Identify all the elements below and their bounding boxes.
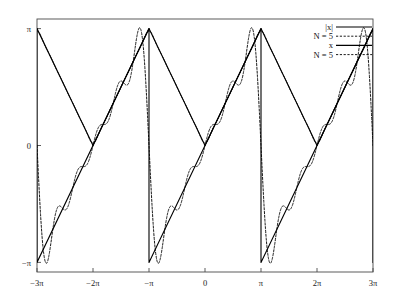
- chart-figure: −3π−2π−π0π2π3π π0−π |x|N = 5xN = 5: [0, 0, 395, 301]
- x-tick-label-2: −π: [144, 278, 154, 288]
- x-tick-label-1: −2π: [86, 278, 100, 288]
- figure-background: [0, 0, 395, 301]
- x-tick-label-4: π: [259, 278, 264, 288]
- y-tick-label-0: π: [27, 24, 32, 34]
- legend-label-3: N = 5: [314, 50, 333, 60]
- x-tick-label-3: 0: [203, 278, 207, 288]
- y-tick-label-1: 0: [27, 141, 31, 151]
- fourier-series-plot: −3π−2π−π0π2π3π π0−π |x|N = 5xN = 5: [0, 0, 395, 301]
- x-tick-label-0: −3π: [30, 278, 44, 288]
- x-tick-label-6: 3π: [369, 278, 378, 288]
- y-tick-label-2: −π: [22, 258, 32, 268]
- x-tick-label-5: 2π: [313, 278, 322, 288]
